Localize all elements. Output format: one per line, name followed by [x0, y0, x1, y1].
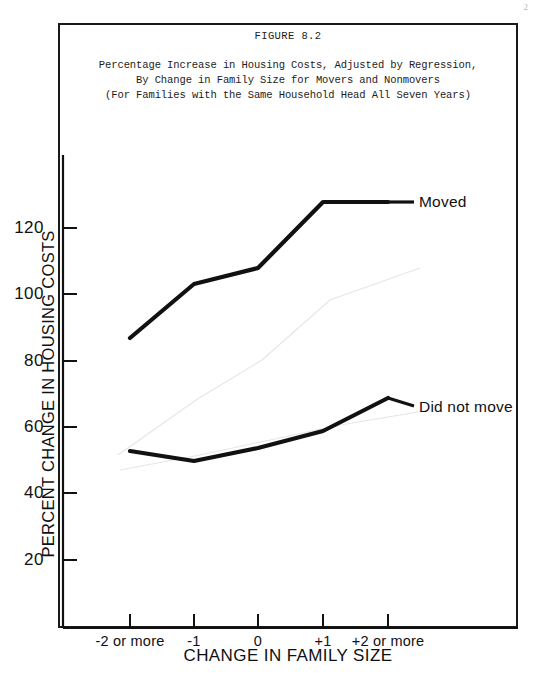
- series-label-did-not-move: Did not move: [419, 398, 513, 416]
- x-axis-ticks: [130, 614, 388, 628]
- y-axis-title: PERCENT CHANGE IN HOUSING COSTS: [39, 258, 58, 558]
- scan-artifact-guides: [118, 268, 430, 470]
- y-tick-label-20: 20: [0, 550, 44, 570]
- y-axis-ticks: [63, 228, 77, 560]
- y-tick-label-120: 120: [0, 218, 44, 238]
- y-tick-label-40: 40: [0, 483, 44, 503]
- series-line-moved: [130, 202, 414, 338]
- y-tick-label-60: 60: [0, 417, 44, 437]
- series-line-did-not-move: [130, 398, 414, 461]
- y-tick-label-100: 100: [0, 284, 44, 304]
- series-label-moved: Moved: [419, 193, 467, 211]
- y-tick-label-80: 80: [0, 351, 44, 371]
- x-axis-title: CHANGE IN FAMILY SIZE: [60, 646, 516, 666]
- chart-plot-area: [0, 0, 534, 685]
